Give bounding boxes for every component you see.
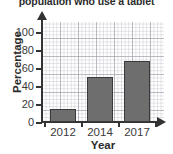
x-axis-tick-label: 2012 xyxy=(43,126,83,138)
y-axis-tick xyxy=(36,122,42,124)
bar-2017 xyxy=(124,61,150,122)
bar-2014 xyxy=(87,77,113,122)
y-axis-tick xyxy=(36,68,42,70)
chart-title: population who use a tablet xyxy=(0,0,173,7)
y-axis-tick xyxy=(36,32,42,34)
bar-chart-figure: population who use a tablet 0 20 40 60 8… xyxy=(0,0,173,154)
y-axis-tick-label: 20 xyxy=(22,99,34,110)
y-axis-title: Percentage xyxy=(11,17,23,107)
x-axis-title: Year xyxy=(42,139,164,151)
y-axis-tick-label: 80 xyxy=(22,45,34,56)
x-axis-tick-label: 2017 xyxy=(117,126,157,138)
y-axis-arrow-icon xyxy=(37,11,47,20)
bar-2012 xyxy=(50,109,76,122)
y-axis-tick xyxy=(36,104,42,106)
y-axis-tick xyxy=(36,50,42,52)
y-axis-tick-label: 40 xyxy=(22,81,34,92)
y-axis-tick-label: 60 xyxy=(22,63,34,74)
x-axis-arrow-icon xyxy=(157,117,166,127)
y-axis-tick-label: 0 xyxy=(28,117,34,128)
y-axis-tick xyxy=(36,86,42,88)
x-axis-tick-label: 2014 xyxy=(80,126,120,138)
